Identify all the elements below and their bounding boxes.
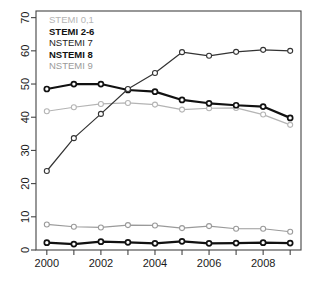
y-tick-label: 0 — [19, 247, 31, 253]
data-point — [98, 225, 103, 230]
data-point — [98, 82, 103, 87]
data-point — [152, 71, 157, 76]
x-tick-label: 2006 — [197, 257, 221, 269]
data-point — [207, 241, 212, 246]
legend-item-nstemi-8: NSTEMI 8 — [49, 49, 93, 60]
x-tick-label: 2008 — [251, 257, 275, 269]
data-point — [180, 97, 185, 102]
data-point — [152, 223, 157, 228]
data-point — [261, 47, 266, 52]
data-point — [44, 169, 49, 174]
data-point — [180, 226, 185, 231]
data-point — [98, 101, 103, 106]
legend-item-nstemi-7: NSTEMI 7 — [49, 37, 93, 48]
data-point — [98, 239, 103, 244]
data-point — [125, 87, 130, 92]
data-point — [207, 53, 212, 58]
y-tick-label: 10 — [19, 211, 31, 223]
data-point — [234, 241, 239, 246]
data-point — [261, 112, 266, 117]
data-point — [71, 105, 76, 110]
data-point — [207, 101, 212, 106]
y-tick-label: 70 — [19, 12, 31, 24]
chart-container: 010203040506070 20002002200420062008 STE… — [0, 0, 317, 282]
data-point — [261, 226, 266, 231]
data-point — [180, 107, 185, 112]
x-tick-label: 2000 — [35, 257, 59, 269]
data-point — [207, 224, 212, 229]
data-point — [234, 103, 239, 108]
legend-item-stemi-0-1: STEMI 0,1 — [49, 14, 94, 25]
data-point — [261, 240, 266, 245]
data-point — [261, 104, 266, 109]
legend-item-stemi-2-6: STEMI 2-6 — [49, 26, 94, 37]
data-point — [288, 229, 293, 234]
data-point — [152, 241, 157, 246]
y-tick-label: 50 — [19, 78, 31, 90]
x-tick-label: 2004 — [143, 257, 167, 269]
y-tick-label: 20 — [19, 177, 31, 189]
data-point — [98, 111, 103, 116]
data-point — [152, 89, 157, 94]
data-point — [180, 50, 185, 55]
y-tick-label: 60 — [19, 45, 31, 57]
data-point — [125, 223, 130, 228]
data-point — [234, 49, 239, 54]
data-point — [44, 222, 49, 227]
data-point — [180, 239, 185, 244]
data-point — [288, 122, 293, 127]
data-point — [44, 109, 49, 114]
data-point — [44, 240, 49, 245]
data-point — [71, 136, 76, 141]
data-point — [234, 226, 239, 231]
data-point — [44, 87, 49, 92]
data-point — [125, 100, 130, 105]
y-tick-label: 40 — [19, 111, 31, 123]
data-point — [71, 224, 76, 229]
chart-legend: STEMI 0,1STEMI 2-6NSTEMI 7NSTEMI 8NSTEMI… — [49, 14, 94, 71]
data-point — [71, 82, 76, 87]
x-tick-label: 2002 — [89, 257, 113, 269]
legend-item-nstemi-9: NSTEMI 9 — [49, 60, 93, 71]
data-point — [288, 115, 293, 120]
y-tick-label: 30 — [19, 144, 31, 156]
data-point — [125, 240, 130, 245]
data-point — [152, 102, 157, 107]
data-point — [288, 48, 293, 53]
data-point — [71, 242, 76, 247]
data-point — [288, 241, 293, 246]
line-chart: 010203040506070 20002002200420062008 STE… — [0, 0, 317, 282]
